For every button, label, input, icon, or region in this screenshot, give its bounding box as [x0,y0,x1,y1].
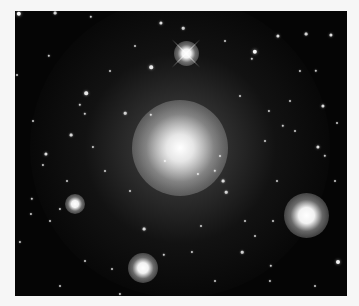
star [111,268,113,270]
galaxy-core [132,100,228,196]
star [225,191,228,194]
star [48,55,50,57]
star [54,12,57,15]
star [59,285,61,287]
star [214,280,216,282]
bright-star [65,194,85,214]
star [272,220,274,222]
star [66,180,68,182]
star [16,74,18,76]
star [244,220,246,222]
star [70,134,73,137]
star [329,33,332,36]
star [336,260,340,264]
star [264,140,266,142]
star [90,16,92,18]
star [334,180,336,182]
star [84,91,88,95]
star [315,70,317,72]
star [109,70,111,72]
star [305,33,308,36]
star [129,190,131,192]
star [17,12,21,16]
star [134,45,136,47]
star [104,170,106,172]
star [143,228,146,231]
bright-star [284,193,329,238]
star [200,225,202,227]
star [84,260,86,262]
star [241,251,244,254]
star [276,180,278,182]
star [336,122,338,124]
star [119,293,121,295]
star [219,155,221,157]
star [49,220,51,222]
star [149,65,153,69]
star [314,285,316,287]
galaxy-image [15,11,347,296]
star [124,112,127,115]
star [19,241,21,243]
star [222,180,225,183]
star [31,198,33,200]
star [182,27,185,30]
star [289,100,291,102]
star [254,235,256,237]
bright-star [128,253,158,283]
star [224,40,226,42]
star [239,95,241,97]
star [32,120,34,122]
star [30,213,32,215]
star [269,280,271,282]
star [294,130,296,132]
